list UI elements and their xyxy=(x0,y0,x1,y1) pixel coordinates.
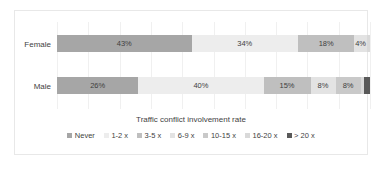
x-axis-title: Traffic conflict involvement rate xyxy=(15,115,367,124)
gridline xyxy=(370,22,371,109)
bar-segment: 18% xyxy=(298,35,354,52)
legend-label: 10-15 x xyxy=(211,131,236,140)
chart-legend: Never1-2 x3-5 x6-9 x10-15 x16-20 x> 20 x xyxy=(15,131,367,140)
legend-swatch-icon xyxy=(203,133,208,138)
legend-label: 1-2 x xyxy=(111,131,128,140)
bar-segment: 34% xyxy=(192,35,298,52)
bar-segment: 43% xyxy=(57,35,192,52)
bar-row-female: Female 43%34%18%4% xyxy=(57,35,370,52)
legend-label: 6-9 x xyxy=(178,131,195,140)
bar-segment: 40% xyxy=(138,77,263,94)
legend-item[interactable]: > 20 x xyxy=(287,131,315,140)
legend-label: > 20 x xyxy=(294,131,315,140)
bar-segment: 15% xyxy=(264,77,311,94)
bar-segment xyxy=(367,35,370,52)
legend-item[interactable]: 10-15 x xyxy=(203,131,236,140)
legend-swatch-icon xyxy=(67,133,72,138)
legend-label: Never xyxy=(75,131,95,140)
legend-label: 16-20 x xyxy=(252,131,277,140)
bar-segment: 4% xyxy=(354,35,367,52)
bar-segment: 8% xyxy=(336,77,361,94)
legend-item[interactable]: 6-9 x xyxy=(170,131,194,140)
legend-swatch-icon xyxy=(287,133,292,138)
legend-swatch-icon xyxy=(170,133,175,138)
bar-segment: 26% xyxy=(57,77,138,94)
bar-segment: 8% xyxy=(311,77,336,94)
chart-frame: Female 43%34%18%4% Male 26%40%15%8%8% Tr… xyxy=(14,10,368,155)
plot-area: Female 43%34%18%4% Male 26%40%15%8%8% xyxy=(57,22,370,109)
legend-swatch-icon xyxy=(137,133,142,138)
bar-segment xyxy=(364,77,370,94)
legend-swatch-icon xyxy=(245,133,250,138)
bar-row-male: Male 26%40%15%8%8% xyxy=(57,77,370,94)
legend-swatch-icon xyxy=(104,133,109,138)
legend-item[interactable]: 3-5 x xyxy=(137,131,161,140)
category-label-female: Female xyxy=(24,39,57,48)
legend-item[interactable]: 16-20 x xyxy=(245,131,278,140)
legend-item[interactable]: Never xyxy=(67,131,95,140)
legend-item[interactable]: 1-2 x xyxy=(104,131,128,140)
category-label-male: Male xyxy=(34,81,57,90)
legend-label: 3-5 x xyxy=(145,131,162,140)
